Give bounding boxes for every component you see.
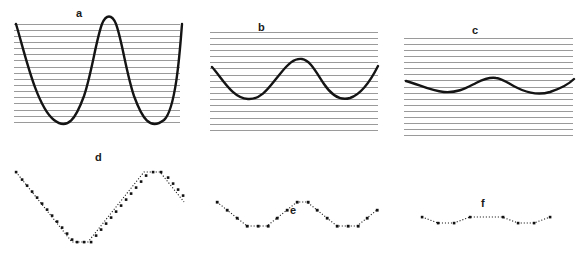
panel-label-a: a <box>76 8 82 19</box>
figure-canvas: a b <box>0 0 580 278</box>
panel-e-waveform <box>217 202 377 226</box>
panel-d-markers <box>15 171 185 244</box>
panel-label-b: b <box>258 22 265 33</box>
panel-e-markers <box>216 201 379 228</box>
panel-d-plot <box>14 166 186 276</box>
panel-a <box>14 10 184 145</box>
panel-b <box>210 10 380 145</box>
panel-c-rules <box>404 38 573 135</box>
panel-e-plot <box>215 196 380 276</box>
panel-f-plot <box>420 210 560 260</box>
panel-e <box>215 196 380 276</box>
panel-d <box>14 166 186 276</box>
panel-label-d: d <box>95 152 102 163</box>
panel-b-rules <box>210 32 378 130</box>
panel-label-e: e <box>290 205 296 216</box>
panel-a-plot <box>14 10 184 145</box>
panel-d-waveform <box>16 172 184 242</box>
panel-f-waveform <box>422 217 550 223</box>
panel-f <box>420 210 560 260</box>
panel-c <box>404 10 576 145</box>
panel-b-plot <box>210 10 380 145</box>
panel-label-f: f <box>481 198 485 209</box>
panel-c-plot <box>404 10 576 145</box>
panel-label-c: c <box>472 25 478 36</box>
panel-a-waveform <box>16 17 182 124</box>
